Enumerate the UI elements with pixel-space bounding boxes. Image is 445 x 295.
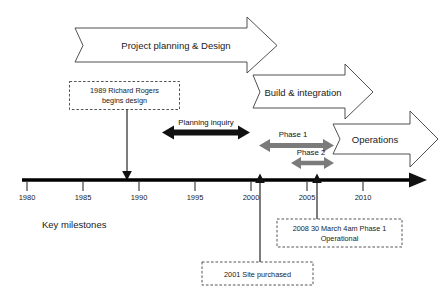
span-arrow-phase-2: Phase 2 — [291, 148, 334, 169]
span-shape-planning-inquiry — [162, 126, 250, 140]
span-label-phase-1: Phase 1 — [279, 130, 308, 139]
span-label-planning-inquiry: Planning inquiry — [178, 118, 234, 127]
milestone-marker-1989 — [122, 110, 132, 181]
tick-label-2005: 2005 — [299, 193, 316, 202]
timeline-diagram: Project planning & Design Build & integr… — [0, 0, 445, 295]
tick-label-1985: 1985 — [75, 193, 92, 202]
callout-phase1-operational: 2008 30 March 4am Phase 1 Operational — [277, 219, 402, 247]
callout-phase1-line2: Operational — [321, 234, 359, 243]
span-shape-phase-2 — [291, 157, 334, 169]
callout-rogers-line1: 1989 Richard Rogers — [90, 86, 159, 95]
callout-rogers-line2: begins design — [102, 96, 147, 105]
timeline-axis: 1980 1985 1990 1995 2000 2005 2010 — [19, 173, 427, 203]
milestone-arrowhead-2008 — [312, 174, 322, 184]
tick-label-2000: 2000 — [243, 193, 260, 202]
callout-site-purchased: 2001 Site purchased — [202, 262, 313, 285]
axis-arrowhead — [409, 173, 427, 188]
banner-build-integration: Build & integration — [253, 64, 373, 119]
tick-label-2010: 2010 — [355, 193, 372, 202]
milestone-arrowhead-2001 — [255, 174, 265, 184]
banner-project-planning-design: Project planning & Design — [75, 17, 277, 73]
tick-label-1980: 1980 — [19, 193, 36, 202]
tick-label-1990: 1990 — [131, 193, 148, 202]
banner-label-planning: Project planning & Design — [121, 40, 230, 51]
callout-richard-rogers: 1989 Richard Rogers begins design — [70, 82, 180, 110]
callout-phase1-line1: 2008 30 March 4am Phase 1 — [293, 224, 387, 233]
span-arrow-planning-inquiry: Planning inquiry — [162, 118, 250, 140]
section-label-key-milestones: Key milestones — [42, 219, 107, 230]
banner-label-operations: Operations — [352, 134, 399, 145]
callout-site-line1: 2001 Site purchased — [224, 270, 291, 279]
timeline-canvas: Project planning & Design Build & integr… — [0, 0, 445, 295]
banner-label-build: Build & integration — [264, 87, 341, 98]
span-label-phase-2: Phase 2 — [297, 148, 326, 157]
milestone-marker-2001 — [255, 174, 265, 263]
banner-operations: Operations — [333, 111, 438, 167]
tick-label-1995: 1995 — [187, 193, 204, 202]
